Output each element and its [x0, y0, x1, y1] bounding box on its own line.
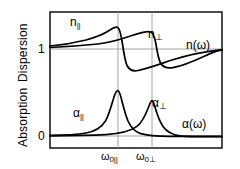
n-glyph: n — [148, 27, 155, 41]
curve-label-n-parallel: n|| — [70, 15, 80, 30]
y-tick-label-one: 1 — [38, 42, 45, 56]
curve-label-alpha-perp: α⊥ — [152, 96, 167, 111]
absorption-axis-title: Absorption — [16, 88, 30, 147]
curve-label-alpha-parallel: α|| — [73, 106, 84, 121]
n-perp-subscript: ⊥ — [155, 32, 163, 42]
omega-0-parallel-subscript: 0|| — [110, 155, 118, 164]
curve-label-n-perp: n⊥ — [148, 27, 163, 42]
alpha-glyph: α — [152, 96, 159, 110]
n-parallel-subscript: || — [77, 21, 81, 30]
omega-glyph: ω — [101, 150, 110, 162]
x-tick-label-omega-0-perp: ω0⊥ — [136, 150, 156, 164]
dispersion-absorption-figure: Dispersion Absorption 1 0 ω0|| ω0⊥ n|| n… — [0, 0, 240, 169]
curve-label-n-omega: n(ω) — [186, 38, 210, 52]
omega-0-perp-subscript: 0⊥ — [145, 155, 156, 164]
omega-glyph: ω — [136, 150, 145, 162]
y-tick-label-zero: 0 — [38, 129, 45, 143]
plot-canvas — [0, 0, 240, 169]
alpha-glyph: α — [73, 106, 80, 120]
dispersion-axis-title: Dispersion — [16, 23, 30, 82]
curve-label-alpha-omega: α(ω) — [182, 117, 206, 131]
alpha-perp-subscript: ⊥ — [159, 101, 167, 111]
n-glyph: n — [70, 15, 77, 29]
x-tick-label-omega-0-parallel: ω0|| — [101, 150, 118, 164]
alpha-parallel-subscript: || — [80, 112, 84, 121]
